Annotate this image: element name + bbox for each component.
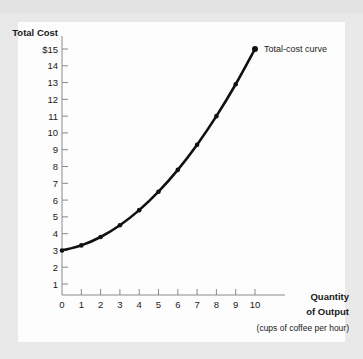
data-point-marker <box>195 142 200 147</box>
data-point-marker <box>252 46 258 52</box>
y-tick-label: 4 <box>53 228 58 239</box>
data-point-marker <box>233 82 238 87</box>
x-tick-label: 0 <box>59 299 64 310</box>
x-axis-title-line1: Quantity <box>310 291 349 302</box>
x-tick-label: 7 <box>194 299 199 310</box>
total-cost-data-markers <box>60 46 258 253</box>
x-tick-label: 3 <box>117 299 122 310</box>
y-tick-label: 14 <box>47 60 58 71</box>
y-tick-label: $15 <box>42 44 58 55</box>
x-axis-ticks: 012345678910 <box>59 289 260 310</box>
y-tick-label: 13 <box>47 77 58 88</box>
x-axis-title-line3: (cups of coffee per hour) <box>257 323 350 333</box>
y-tick-label: 5 <box>53 211 58 222</box>
x-tick-label: 8 <box>214 299 219 310</box>
y-tick-label: 3 <box>53 245 58 256</box>
x-tick-label: 10 <box>250 299 261 310</box>
y-tick-label: 6 <box>53 195 58 206</box>
data-point-marker <box>156 189 161 194</box>
data-point-marker <box>79 243 84 248</box>
data-point-marker <box>176 168 181 173</box>
y-tick-label: 2 <box>53 262 58 273</box>
data-point-marker <box>214 114 219 119</box>
y-tick-label: 9 <box>53 144 58 155</box>
data-point-marker <box>60 248 65 253</box>
x-tick-label: 4 <box>137 299 142 310</box>
x-axis-title-line2: of Output <box>306 306 350 317</box>
data-point-marker <box>137 208 142 213</box>
x-tick-label: 9 <box>233 299 238 310</box>
y-tick-label: 10 <box>47 127 58 138</box>
x-tick-label: 5 <box>156 299 161 310</box>
y-tick-label: 11 <box>48 111 58 122</box>
y-tick-label: 7 <box>53 178 58 189</box>
x-tick-label: 6 <box>175 299 180 310</box>
y-tick-label: 1 <box>53 279 58 290</box>
chart-svg: 1234567891011121314$15 012345678910 Tota… <box>0 0 363 359</box>
data-point-marker <box>98 235 103 240</box>
x-tick-label: 1 <box>79 299 84 310</box>
x-tick-label: 2 <box>98 299 103 310</box>
total-cost-curve <box>62 49 255 250</box>
y-axis-ticks: 1234567891011121314$15 <box>42 44 68 290</box>
curve-annotation-label: Total-cost curve <box>264 44 327 54</box>
y-tick-label: 12 <box>47 94 58 105</box>
y-tick-label: 8 <box>53 161 58 172</box>
y-axis-title: Total Cost <box>12 27 59 38</box>
total-cost-chart-figure: 1234567891011121314$15 012345678910 Tota… <box>0 0 363 359</box>
data-point-marker <box>118 223 123 228</box>
